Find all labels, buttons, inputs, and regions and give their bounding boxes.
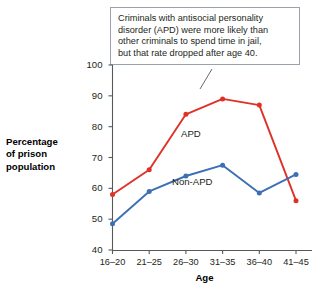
series-layer: [110, 96, 299, 226]
y-axis-tick-label: 70: [77, 152, 103, 163]
data-point: [220, 163, 225, 168]
y-axis-tick-label: 40: [77, 244, 103, 255]
x-axis-title-text: Age: [195, 272, 213, 283]
y-axis-tick-label: 100: [77, 59, 103, 70]
data-point: [183, 112, 188, 117]
data-point: [294, 198, 299, 203]
data-point: [220, 96, 225, 101]
y-axis-tick-label: 90: [77, 90, 103, 101]
data-point: [110, 221, 115, 226]
data-point: [147, 167, 152, 172]
x-axis-tick-label: 41–45: [273, 257, 319, 267]
series-label-non-apd: Non-APD: [172, 176, 213, 187]
data-point: [110, 192, 115, 197]
y-axis-tick-label: 80: [77, 121, 103, 132]
data-point: [257, 103, 262, 108]
series-non-apd: [110, 163, 299, 227]
chart-figure: Criminals with antisocial personality di…: [0, 0, 321, 289]
y-axis-tick-label: 60: [77, 182, 103, 193]
data-point: [294, 172, 299, 177]
callout-leader-line: [200, 69, 212, 89]
series-label-apd: APD: [181, 128, 201, 139]
data-point: [147, 189, 152, 194]
series-line: [113, 165, 297, 224]
plot-area: [0, 0, 321, 289]
x-axis-title: Age: [0, 272, 321, 283]
data-point: [257, 190, 262, 195]
y-axis-tick-label: 50: [77, 213, 103, 224]
